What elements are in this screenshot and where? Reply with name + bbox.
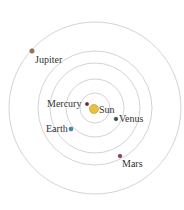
mars-label: Mars (122, 159, 143, 169)
jupiter-icon (30, 49, 34, 53)
earth-icon (69, 127, 73, 131)
mercury-icon (85, 102, 88, 105)
venus-icon (114, 117, 118, 121)
sun-icon (90, 105, 99, 114)
venus-label: Venus (119, 114, 143, 124)
sun-label: Sun (99, 105, 115, 115)
jupiter-label: Jupiter (35, 55, 62, 65)
earth-label: Earth (46, 124, 68, 134)
mercury-label: Mercury (47, 99, 81, 109)
solar-system-diagram (0, 0, 184, 210)
